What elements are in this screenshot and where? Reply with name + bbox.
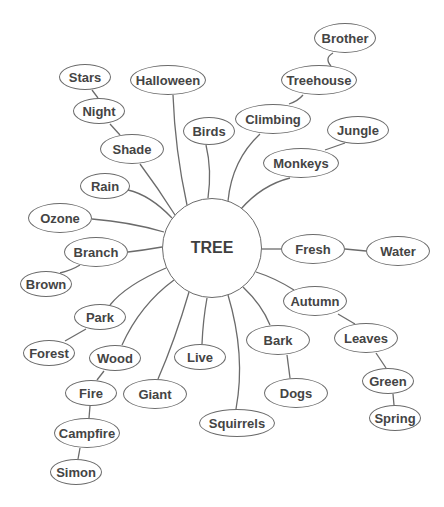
node-shade: Shade bbox=[100, 134, 164, 164]
mind-map-canvas: TREE StarsNightShadeHalloweenBirdsBrothe… bbox=[0, 0, 444, 507]
node-label: Treehouse bbox=[286, 73, 351, 88]
edge-fresh-water bbox=[345, 249, 366, 251]
node-giant: Giant bbox=[123, 379, 187, 409]
edge-night-shade bbox=[110, 124, 120, 135]
edge-tree-autumn bbox=[256, 272, 294, 290]
node-label: Branch bbox=[74, 245, 119, 260]
node-label: Night bbox=[82, 104, 115, 119]
edge-leaves-green bbox=[376, 353, 386, 368]
node-leaves: Leaves bbox=[334, 323, 398, 353]
node-label: Forest bbox=[29, 346, 69, 361]
node-label: Ozone bbox=[40, 211, 80, 226]
node-label: Stars bbox=[69, 70, 102, 85]
edge-tree-climbing bbox=[228, 134, 260, 201]
node-label: Bark bbox=[264, 333, 293, 348]
node-label: Shade bbox=[112, 142, 151, 157]
node-monkeys: Monkeys bbox=[263, 148, 339, 178]
node-label: Live bbox=[187, 350, 213, 365]
node-branch: Branch bbox=[64, 237, 128, 267]
edge-fire-campfire bbox=[89, 406, 90, 418]
edge-branch-brown bbox=[60, 265, 80, 273]
edge-tree-halloween bbox=[173, 95, 187, 205]
node-label: Leaves bbox=[344, 331, 388, 346]
node-label: Green bbox=[369, 374, 407, 389]
edge-stars-night bbox=[92, 90, 98, 98]
node-label: Fresh bbox=[295, 242, 330, 257]
node-climbing: Climbing bbox=[235, 104, 311, 134]
edge-green-spring bbox=[393, 394, 394, 405]
edge-tree-monkeys bbox=[241, 178, 290, 209]
node-ozone: Ozone bbox=[28, 203, 92, 233]
node-label: Dogs bbox=[280, 386, 313, 401]
node-label: Brown bbox=[26, 277, 66, 292]
node-label: Squirrels bbox=[209, 416, 265, 431]
node-water: Water bbox=[366, 236, 430, 266]
node-brown: Brown bbox=[20, 271, 72, 297]
node-stars: Stars bbox=[59, 64, 111, 90]
node-wood: Wood bbox=[89, 345, 141, 371]
node-label: Halloween bbox=[136, 73, 200, 88]
node-label: Autumn bbox=[290, 294, 339, 309]
node-autumn: Autumn bbox=[283, 286, 347, 316]
node-bark: Bark bbox=[246, 325, 310, 355]
edge-tree-bark bbox=[243, 287, 270, 325]
edge-tree-squirrels bbox=[228, 295, 240, 409]
node-rain: Rain bbox=[80, 173, 130, 199]
node-halloween: Halloween bbox=[130, 65, 206, 95]
edge-tree-rain bbox=[128, 190, 172, 218]
node-label: Climbing bbox=[245, 112, 301, 127]
node-label: Water bbox=[380, 244, 416, 259]
edge-brother-treehouse bbox=[328, 53, 333, 66]
center-node-tree: TREE bbox=[162, 198, 262, 298]
edge-park-forest bbox=[65, 329, 86, 341]
node-label: Rain bbox=[91, 179, 119, 194]
node-label: Spring bbox=[374, 411, 415, 426]
node-label: Jungle bbox=[337, 123, 379, 138]
node-spring: Spring bbox=[369, 405, 421, 431]
node-campfire: Campfire bbox=[54, 418, 120, 448]
node-label: Simon bbox=[56, 465, 96, 480]
edge-jungle-monkeys bbox=[325, 143, 345, 150]
edge-autumn-leaves bbox=[338, 314, 355, 324]
edge-tree-birds bbox=[206, 145, 210, 198]
node-label: Monkeys bbox=[273, 156, 329, 171]
node-simon: Simon bbox=[50, 459, 102, 485]
node-brother: Brother bbox=[314, 23, 376, 53]
node-birds: Birds bbox=[183, 117, 235, 145]
node-green: Green bbox=[362, 368, 414, 394]
node-treehouse: Treehouse bbox=[281, 65, 357, 95]
node-squirrels: Squirrels bbox=[199, 409, 275, 437]
edge-tree-live bbox=[202, 298, 207, 344]
node-label: Giant bbox=[138, 387, 171, 402]
edge-tree-park bbox=[110, 268, 166, 305]
edge-tree-ozone bbox=[92, 219, 164, 232]
node-dogs: Dogs bbox=[264, 378, 328, 408]
edge-tree-branch bbox=[128, 247, 162, 252]
edge-treehouse-climbing bbox=[289, 95, 303, 104]
edge-campfire-simon bbox=[78, 448, 80, 459]
node-night: Night bbox=[73, 98, 125, 124]
edge-bark-dogs bbox=[287, 355, 290, 378]
node-label: Birds bbox=[192, 124, 225, 139]
node-label: Campfire bbox=[59, 426, 115, 441]
node-label: Wood bbox=[97, 351, 133, 366]
node-park: Park bbox=[74, 304, 126, 330]
node-fresh: Fresh bbox=[281, 234, 345, 264]
center-node-label: TREE bbox=[191, 239, 234, 257]
edge-wood-fire bbox=[97, 371, 104, 380]
node-label: Fire bbox=[79, 386, 103, 401]
node-live: Live bbox=[174, 344, 226, 370]
node-jungle: Jungle bbox=[327, 116, 389, 144]
node-fire: Fire bbox=[65, 380, 117, 406]
node-label: Brother bbox=[322, 31, 369, 46]
node-label: Park bbox=[86, 310, 114, 325]
edge-tree-shade bbox=[140, 164, 175, 215]
node-forest: Forest bbox=[23, 340, 75, 366]
edge-tree-wood bbox=[122, 280, 174, 345]
